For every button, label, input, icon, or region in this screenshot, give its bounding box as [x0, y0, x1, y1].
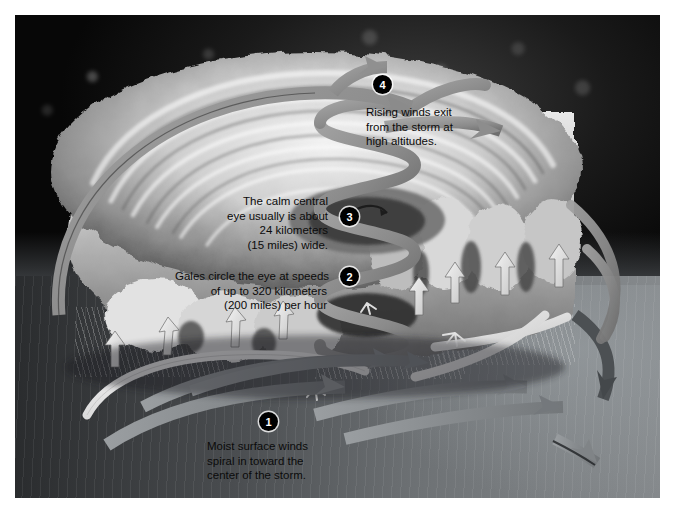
figure-page: 1 Moist surface winds spiral in toward t…	[0, 0, 675, 516]
callout-2-line-3: (200 miles) per hour	[175, 298, 327, 313]
callout-4-line-2: from the storm at	[366, 120, 453, 135]
callout-text-2: Gales circle the eye at speeds of up to …	[175, 269, 327, 313]
callout-text-4: Rising winds exit from the storm at high…	[366, 105, 453, 149]
callout-2-line-1: Gales circle the eye at speeds	[175, 269, 327, 284]
callout-2-line-2: of up to 320 kilometers	[175, 284, 327, 299]
callout-4-line-1: Rising winds exit	[366, 105, 453, 120]
callout-badge-2: 2	[340, 267, 359, 286]
callout-3-line-3: 24 kilometers	[180, 223, 328, 238]
hurricane-illustration: 1 Moist surface winds spiral in toward t…	[15, 15, 660, 498]
callout-1-line-2: spiral in toward the	[207, 454, 308, 469]
callout-3-line-2: eye usually is about	[180, 209, 328, 224]
callout-badge-3: 3	[340, 207, 359, 226]
callout-1-line-1: Moist surface winds	[207, 439, 308, 454]
callout-text-1: Moist surface winds spiral in toward the…	[207, 439, 308, 483]
hurricane-artwork	[15, 15, 660, 498]
callout-badge-4: 4	[373, 75, 392, 94]
callout-3-line-1: The calm central	[180, 194, 328, 209]
callout-4-line-3: high altitudes.	[366, 134, 453, 149]
callout-3-line-4: (15 miles) wide.	[180, 238, 328, 253]
outflow-arrow-lower-right	[553, 439, 597, 465]
callout-1-line-3: center of the storm.	[207, 468, 308, 483]
callout-badge-1: 1	[259, 412, 278, 431]
callout-text-3: The calm central eye usually is about 24…	[180, 194, 328, 252]
